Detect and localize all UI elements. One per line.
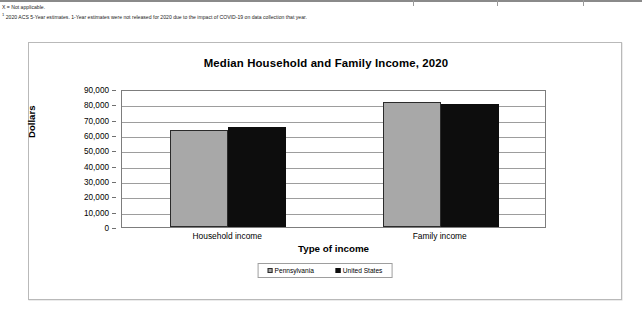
x-axis-tick-label: Family income <box>413 231 467 241</box>
chart-title: Median Household and Family Income, 2020 <box>29 57 623 69</box>
chart-frame: Median Household and Family Income, 2020… <box>28 42 622 300</box>
y-axis-tick <box>112 151 116 152</box>
plot-area <box>121 90 546 228</box>
bar-pennsylvania-household-income <box>170 130 228 227</box>
bar-series-container <box>122 91 545 227</box>
y-axis-tick-labels: 90,00080,00070,00060,00050,00040,00030,0… <box>29 43 117 293</box>
y-axis-tick <box>112 105 116 106</box>
chart-legend: PennsylvaniaUnited States <box>258 263 393 278</box>
table-top-rule <box>0 0 642 2</box>
y-axis-tick-label: 60,000 <box>84 132 109 141</box>
footnote-marker: 1 <box>2 12 4 17</box>
y-axis-tick <box>112 197 116 198</box>
footnote-acs-estimates: 1 2020 ACS 5-Year estimates. 1-Year esti… <box>2 12 642 20</box>
y-axis-tick-label: 0 <box>104 224 109 233</box>
y-axis-tick <box>112 213 116 214</box>
y-axis-tick <box>112 121 116 122</box>
bar-pennsylvania-family-income <box>383 102 441 227</box>
y-axis-tick-label: 10,000 <box>84 208 109 217</box>
footnotes: X = Not applicable. 1 2020 ACS 5-Year es… <box>2 4 642 20</box>
x-axis-title: Type of income <box>121 243 546 254</box>
y-axis-tick-label: 50,000 <box>84 147 109 156</box>
y-axis-tick-label: 20,000 <box>84 193 109 202</box>
legend-label: Pennsylvania <box>275 267 314 274</box>
legend-item-pennsylvania: Pennsylvania <box>268 267 314 274</box>
y-axis-tick-label: 90,000 <box>84 86 109 95</box>
y-axis-tick-label: 30,000 <box>84 178 109 187</box>
y-axis-tick <box>112 182 116 183</box>
footnote-not-applicable: X = Not applicable. <box>2 4 642 10</box>
y-axis-tick-label: 40,000 <box>84 162 109 171</box>
bar-united-states-household-income <box>228 127 286 227</box>
y-axis-tick-label: 80,000 <box>84 101 109 110</box>
y-axis-tick <box>112 90 116 91</box>
legend-swatch-icon <box>268 268 273 273</box>
y-axis-tick <box>112 167 116 168</box>
y-axis-tick-label: 70,000 <box>84 116 109 125</box>
legend-swatch-icon <box>336 268 341 273</box>
x-axis-tick-label: Household income <box>193 231 262 241</box>
y-axis-tick <box>112 136 116 137</box>
y-axis-tick <box>112 228 116 229</box>
bar-united-states-family-income <box>441 104 499 227</box>
legend-item-united-states: United States <box>336 267 383 274</box>
footnote-acs-text: 2020 ACS 5-Year estimates. 1-Year estima… <box>6 13 307 19</box>
legend-label: United States <box>343 267 383 274</box>
